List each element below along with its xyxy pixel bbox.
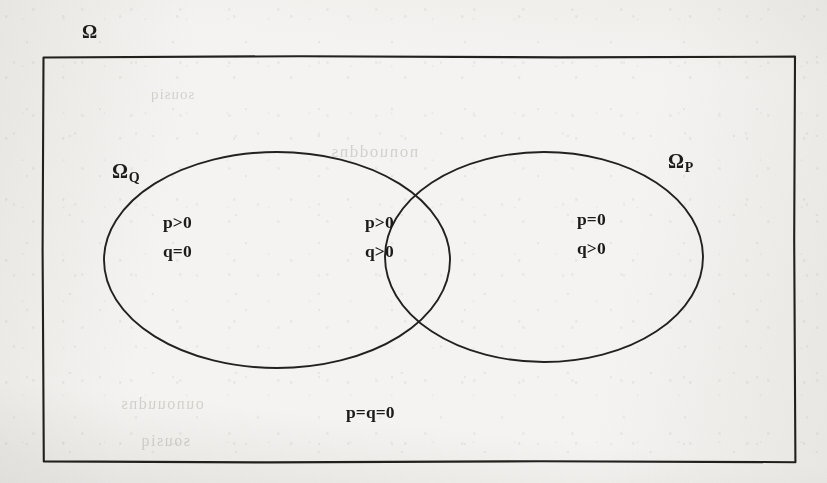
omega-q-ellipse [104,152,450,368]
region-intersection-line1: p>0 [365,208,394,237]
omega-p-ellipse [385,152,703,362]
omega-p-label-base: Ω [668,150,684,172]
universal-set-label: Ω [82,21,97,43]
universal-set-rectangle [43,56,796,462]
omega-p-label-subscript: P [685,160,694,175]
region-left-only-line1: p>0 [163,208,192,237]
region-right-only-line2: q>0 [577,234,606,263]
omega-q-label: ΩQ [112,160,140,186]
scanned-figure-page: sousiq nonuoddns ounouudns sousiq Ω ΩQ Ω… [0,0,827,483]
region-intersection-line2: q>0 [365,237,394,266]
region-right-only-line1: p=0 [577,205,606,234]
region-left-only-line2: q=0 [163,237,192,266]
region-intersection-label: p>0 q>0 [365,208,394,266]
omega-q-label-base: Ω [112,160,128,182]
region-outside-label: p=q=0 [346,402,395,423]
region-right-only-label: p=0 q>0 [577,205,606,263]
venn-diagram-drawing [0,0,827,483]
region-left-only-label: p>0 q=0 [163,208,192,266]
omega-q-label-subscript: Q [129,170,140,185]
omega-p-label: ΩP [668,150,693,176]
